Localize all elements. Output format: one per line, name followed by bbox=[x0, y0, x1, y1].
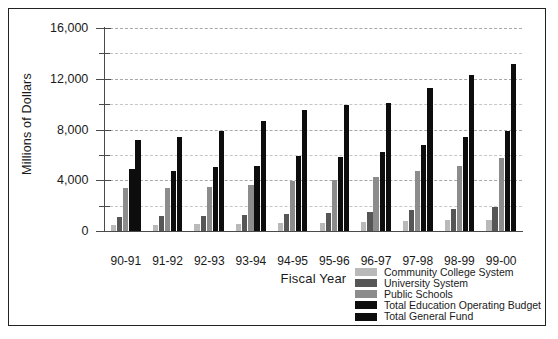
x-axis-line bbox=[104, 231, 523, 232]
y-axis-tick-label: 0 bbox=[81, 224, 88, 238]
bar bbox=[427, 88, 432, 231]
y-axis-line bbox=[104, 27, 105, 231]
bar-group bbox=[105, 28, 147, 231]
bar bbox=[469, 75, 474, 231]
bar bbox=[248, 185, 253, 231]
y-axis-title: Millions of Dollars bbox=[20, 44, 34, 204]
bar bbox=[451, 209, 456, 231]
legend-item: Total General Fund bbox=[355, 312, 541, 322]
bar bbox=[213, 167, 218, 231]
bar bbox=[278, 223, 283, 231]
bar bbox=[236, 224, 241, 231]
legend-item: Total Education Operating Budget bbox=[355, 301, 541, 311]
bar bbox=[380, 152, 385, 231]
bar bbox=[421, 145, 426, 231]
x-axis-tick-label: 90-91 bbox=[110, 254, 141, 268]
bar bbox=[242, 215, 247, 231]
bar bbox=[171, 171, 176, 231]
legend-swatch bbox=[355, 313, 377, 321]
legend-label: Community College System bbox=[384, 267, 514, 278]
legend-label: University System bbox=[384, 278, 468, 289]
bar bbox=[159, 216, 164, 231]
bar bbox=[207, 187, 212, 231]
bar bbox=[492, 207, 497, 231]
bar bbox=[177, 137, 182, 231]
x-axis-tick-label: 95-96 bbox=[319, 254, 350, 268]
bar-group bbox=[188, 28, 230, 231]
y-axis-tick-label: 8,000 bbox=[57, 122, 88, 136]
bar-group bbox=[480, 28, 522, 231]
legend-label: Public Schools bbox=[384, 289, 453, 300]
bar bbox=[219, 131, 224, 231]
bar bbox=[386, 103, 391, 231]
legend-swatch bbox=[355, 279, 377, 287]
bar bbox=[117, 217, 122, 231]
bar bbox=[201, 216, 206, 231]
bar bbox=[367, 212, 372, 231]
x-axis-tick-label: 92-93 bbox=[194, 254, 225, 268]
bar bbox=[261, 121, 266, 231]
bar bbox=[135, 140, 140, 231]
bar bbox=[284, 214, 289, 232]
bar bbox=[373, 177, 378, 231]
legend-label: Total Education Operating Budget bbox=[384, 300, 541, 311]
bar bbox=[463, 137, 468, 231]
y-axis-tick-label: 12,000 bbox=[50, 71, 88, 85]
legend-item: University System bbox=[355, 278, 541, 288]
x-axis-tick-label: 91-92 bbox=[152, 254, 183, 268]
bar bbox=[302, 110, 307, 231]
bar bbox=[344, 105, 349, 231]
bar-group bbox=[355, 28, 397, 231]
bar bbox=[290, 181, 295, 231]
chart-legend: Community College SystemUniversity Syste… bbox=[355, 267, 541, 323]
x-axis-tick-label: 93-94 bbox=[236, 254, 267, 268]
bar bbox=[409, 210, 414, 231]
bar bbox=[486, 220, 491, 231]
bar-group bbox=[397, 28, 439, 231]
bar bbox=[445, 220, 450, 231]
legend-label: Total General Fund bbox=[384, 311, 473, 322]
bar bbox=[338, 157, 343, 231]
bar bbox=[296, 156, 301, 231]
bar bbox=[457, 166, 462, 231]
bar bbox=[415, 171, 420, 231]
legend-swatch bbox=[355, 301, 377, 309]
bar bbox=[254, 166, 259, 231]
bar bbox=[129, 169, 134, 231]
plot-inner: 04,0008,00012,00016,000 bbox=[105, 28, 522, 231]
legend-swatch bbox=[355, 268, 377, 276]
bar bbox=[361, 222, 366, 231]
chart-frame: Millions of Dollars 04,0008,00012,00016,… bbox=[8, 8, 546, 326]
bar bbox=[511, 64, 516, 231]
bar-group bbox=[314, 28, 356, 231]
bar bbox=[194, 224, 199, 231]
legend-item: Community College System bbox=[355, 267, 541, 277]
bar bbox=[505, 131, 510, 231]
bar bbox=[403, 221, 408, 231]
bar bbox=[326, 213, 331, 231]
bar-group bbox=[272, 28, 314, 231]
bar-group bbox=[147, 28, 189, 231]
legend-item: Public Schools bbox=[355, 289, 541, 299]
legend-swatch bbox=[355, 290, 377, 298]
x-axis-tick-label: 94-95 bbox=[277, 254, 308, 268]
bar bbox=[320, 223, 325, 231]
plot-area: 04,0008,00012,00016,000 90-9191-9292-939… bbox=[105, 28, 522, 231]
y-axis-tick-label: 4,000 bbox=[57, 173, 88, 187]
bar bbox=[165, 188, 170, 231]
bar bbox=[499, 158, 504, 231]
bar bbox=[123, 188, 128, 231]
y-axis-tick-label: 16,000 bbox=[50, 21, 88, 35]
bar-group bbox=[230, 28, 272, 231]
bar bbox=[332, 180, 337, 231]
bar-group bbox=[439, 28, 481, 231]
